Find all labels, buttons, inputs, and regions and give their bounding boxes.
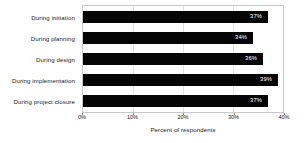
category-label: During initiation [0, 15, 79, 21]
category-axis: During initiationDuring planningDuring d… [0, 7, 79, 113]
bar-row: 37% [83, 95, 283, 107]
bar-row: 36% [83, 53, 283, 65]
x-tick-label: 0% [78, 115, 86, 121]
bar-value-label: 37% [250, 98, 268, 104]
bar: 37% [83, 95, 268, 107]
x-tick-label: 20% [177, 115, 188, 121]
x-axis: 0%10%20%30%40% [82, 113, 284, 123]
bar: 36% [83, 53, 263, 65]
category-label: During design [0, 57, 79, 63]
plot-area: 37%34%36%39%37% [82, 5, 284, 113]
bar-value-label: 34% [235, 35, 253, 41]
bar-value-label: 37% [250, 14, 268, 20]
bar: 39% [83, 74, 278, 86]
bar-row: 37% [83, 11, 283, 23]
category-label: During planning [0, 36, 79, 42]
category-label: During implementation [0, 78, 79, 84]
x-axis-title: Percent of respondents [82, 127, 284, 133]
x-tick-label: 30% [228, 115, 239, 121]
bar-row: 34% [83, 32, 283, 44]
bar-value-label: 39% [260, 77, 278, 83]
bar-series: 37%34%36%39%37% [83, 6, 283, 112]
bar-value-label: 36% [245, 56, 263, 62]
bar-chart: During initiationDuring planningDuring d… [0, 0, 306, 143]
bar: 37% [83, 11, 268, 23]
category-label: During project closure [0, 99, 79, 105]
bar: 34% [83, 32, 253, 44]
x-tick-label: 10% [127, 115, 138, 121]
bar-row: 39% [83, 74, 283, 86]
x-tick-label: 40% [278, 115, 289, 121]
